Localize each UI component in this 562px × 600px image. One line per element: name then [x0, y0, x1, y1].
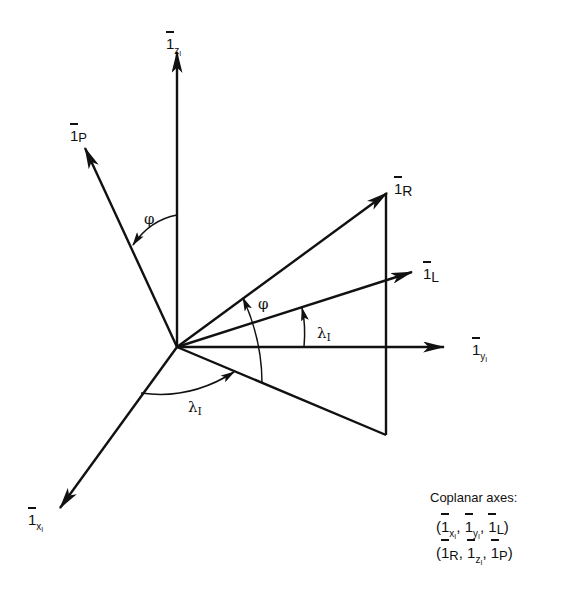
label-1zI: 1zI	[166, 36, 181, 51]
label-lambda-right: λI	[317, 326, 331, 341]
caption-line-2: (1R, 1zI, 1P)	[436, 544, 513, 563]
lambda-arc-right	[302, 308, 305, 347]
vector-1L	[177, 272, 412, 347]
label-lambda-left: λI	[188, 400, 202, 415]
plane-line	[177, 347, 386, 435]
caption-line-1: (1xI, 1yI, 1L)	[436, 518, 509, 537]
vector-1R	[177, 193, 387, 347]
frame-diagram	[0, 0, 562, 600]
label-1yI: 1yI	[472, 342, 487, 357]
label-phi-top: φ	[144, 212, 155, 227]
label-1xI: 1xI	[28, 512, 43, 527]
caption-title: Coplanar axes:	[430, 490, 517, 506]
label-1P: 1P	[70, 128, 87, 143]
label-1R: 1R	[394, 181, 412, 196]
vector-1P	[85, 148, 177, 347]
label-1L: 1L	[423, 266, 439, 281]
phi-arc-top	[133, 215, 177, 245]
label-phi-right: φ	[258, 297, 269, 312]
vector-1xI	[60, 347, 177, 508]
